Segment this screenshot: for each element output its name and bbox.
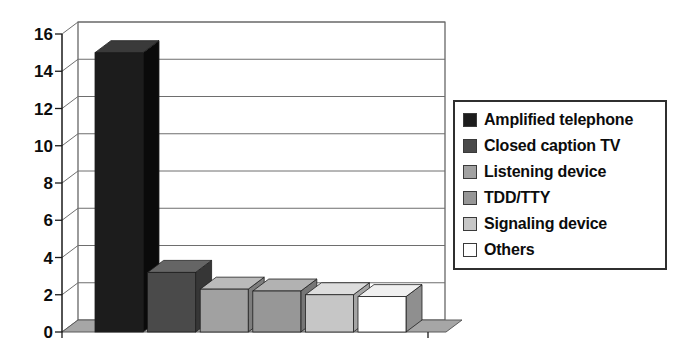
gridline-connector bbox=[62, 59, 78, 71]
legend-label: Closed caption TV bbox=[484, 138, 620, 154]
gridline-connector bbox=[62, 171, 78, 183]
legend-label: Listening device bbox=[484, 164, 606, 180]
y-axis-label: 14 bbox=[34, 62, 53, 81]
legend-item: Amplified telephone bbox=[463, 107, 663, 133]
bar-tdd-tty bbox=[253, 291, 301, 332]
gridline-connector bbox=[62, 97, 78, 109]
bar-closed-caption-tv bbox=[148, 272, 196, 332]
bar-others bbox=[358, 297, 406, 332]
legend-label: Amplified telephone bbox=[484, 112, 633, 128]
legend-swatch bbox=[463, 243, 477, 257]
legend-label: Others bbox=[484, 242, 534, 258]
gridline-connector bbox=[62, 134, 78, 146]
y-axis-label: 6 bbox=[44, 211, 53, 230]
legend-label: TDD/TTY bbox=[484, 190, 550, 206]
legend-item: Signaling device bbox=[463, 211, 663, 237]
y-axis-label: 12 bbox=[34, 100, 53, 119]
gridline-connector bbox=[62, 246, 78, 258]
y-axis-label: 0 bbox=[44, 323, 53, 342]
legend-swatch bbox=[463, 139, 477, 153]
y-axis-label: 10 bbox=[34, 137, 53, 156]
legend: Amplified telephone Closed caption TV Li… bbox=[453, 100, 667, 270]
bar-signaling-device bbox=[305, 295, 353, 332]
legend-label: Signaling device bbox=[484, 216, 607, 232]
legend-item: Closed caption TV bbox=[463, 133, 663, 159]
legend-item: Listening device bbox=[463, 159, 663, 185]
legend-item: TDD/TTY bbox=[463, 185, 663, 211]
gridline-connector bbox=[62, 22, 78, 34]
legend-swatch bbox=[463, 165, 477, 179]
legend-swatch bbox=[463, 113, 477, 127]
gridline-connector bbox=[62, 283, 78, 295]
legend-swatch bbox=[463, 217, 477, 231]
gridline-connector bbox=[62, 208, 78, 220]
y-axis-label: 16 bbox=[34, 25, 53, 44]
y-axis-label: 8 bbox=[44, 174, 53, 193]
legend-item: Others bbox=[463, 237, 663, 263]
y-axis-label: 4 bbox=[44, 249, 54, 268]
bar-amplified-telephone bbox=[95, 53, 143, 332]
bar-listening-device bbox=[200, 289, 248, 332]
legend-swatch bbox=[463, 191, 477, 205]
y-axis-label: 2 bbox=[44, 286, 53, 305]
chart-figure: 0246810121416 Amplified telephone Closed… bbox=[0, 0, 687, 351]
